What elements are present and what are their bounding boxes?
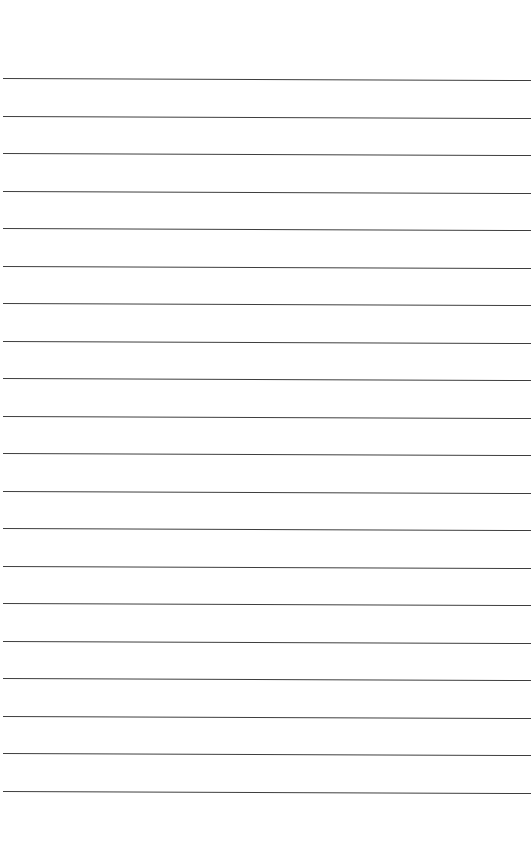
- lined-paper-sheet: [0, 0, 532, 865]
- ruled-line: [3, 641, 531, 644]
- ruled-line: [3, 378, 531, 381]
- ruled-line: [3, 603, 531, 606]
- ruled-line: [3, 266, 531, 269]
- ruled-line: [3, 153, 531, 156]
- ruled-line: [3, 491, 531, 494]
- ruled-line: [3, 416, 531, 419]
- ruled-line: [3, 78, 531, 81]
- ruled-line: [3, 191, 531, 194]
- ruled-line: [3, 791, 531, 794]
- ruled-line: [3, 566, 531, 569]
- ruled-line: [3, 528, 531, 531]
- ruled-line: [3, 716, 531, 719]
- ruled-line: [3, 341, 531, 344]
- ruled-line: [3, 116, 531, 119]
- ruled-line: [3, 303, 531, 306]
- ruled-line: [3, 228, 531, 231]
- ruled-line: [3, 453, 531, 456]
- ruled-line: [3, 678, 531, 681]
- ruled-line: [3, 753, 531, 756]
